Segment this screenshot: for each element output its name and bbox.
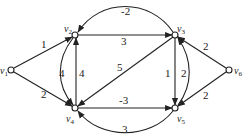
node-v1	[8, 67, 14, 73]
weight-v1-v2: 1	[41, 38, 47, 50]
node-v5	[172, 105, 178, 111]
weight-v6-v3: 2	[203, 40, 209, 52]
weight-v3-v4: 5	[117, 61, 123, 73]
weight-v5-v4: 3	[122, 123, 128, 135]
weight-v4-v5: -3	[119, 94, 129, 106]
weight-v2-v4: 4	[59, 67, 65, 79]
weight-v3-v2: -2	[121, 5, 130, 17]
label-v5: v5	[177, 113, 185, 126]
weight-v6-v5: 2	[203, 89, 209, 101]
node-v6	[226, 67, 232, 73]
graph-diagram: 1 2 3 -2 4 4 5 1 2 -3 3 2 2 v1 v2 v3 v4 …	[0, 0, 251, 140]
weight-v2-v3: 3	[121, 35, 127, 47]
weight-v4-v2: 4	[79, 67, 85, 79]
graph-svg: 1 2 3 -2 4 4 5 1 2 -3 3 2 2 v1 v2 v3 v4 …	[0, 0, 251, 140]
label-v1: v1	[0, 65, 8, 78]
weight-v5-v3: 2	[181, 67, 187, 79]
node-v4	[72, 105, 78, 111]
label-v2: v2	[64, 23, 72, 36]
label-v4: v4	[66, 113, 74, 126]
node-v2	[72, 32, 78, 38]
weight-v1-v4: 2	[41, 88, 47, 100]
weight-v3-v5: 1	[165, 67, 171, 79]
label-v6: v6	[234, 65, 242, 78]
